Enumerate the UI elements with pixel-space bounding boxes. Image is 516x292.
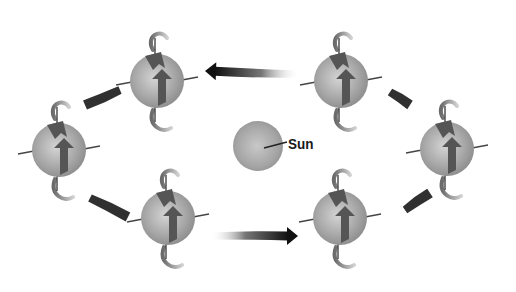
orbit-arrow-upper-right xyxy=(387,88,413,110)
sphere-top-right xyxy=(300,34,382,130)
orbit-arrow-lower-left xyxy=(88,193,131,221)
sun-label: Sun xyxy=(288,135,314,152)
orbit-arrow-lower-right xyxy=(402,189,433,215)
sphere-top-left xyxy=(116,34,198,130)
sphere-left xyxy=(18,103,100,199)
spin-ring-icon xyxy=(53,103,69,119)
spin-ring-icon xyxy=(335,34,351,50)
sphere-bottom-left xyxy=(127,171,209,267)
spin-ring-icon xyxy=(162,171,178,187)
sun-sphere xyxy=(233,121,283,171)
orbit-diagram xyxy=(0,0,516,292)
sphere-bottom-right xyxy=(299,171,381,267)
spin-ring-icon xyxy=(441,102,457,118)
sphere-right xyxy=(406,102,488,198)
sun xyxy=(233,121,287,171)
orbit-arrow-upper-left xyxy=(83,85,122,109)
orbit-arrow-bottom xyxy=(210,227,298,245)
orbit-arrow-top xyxy=(205,62,301,83)
spin-ring-icon xyxy=(334,171,350,187)
spin-ring-icon xyxy=(151,34,167,50)
